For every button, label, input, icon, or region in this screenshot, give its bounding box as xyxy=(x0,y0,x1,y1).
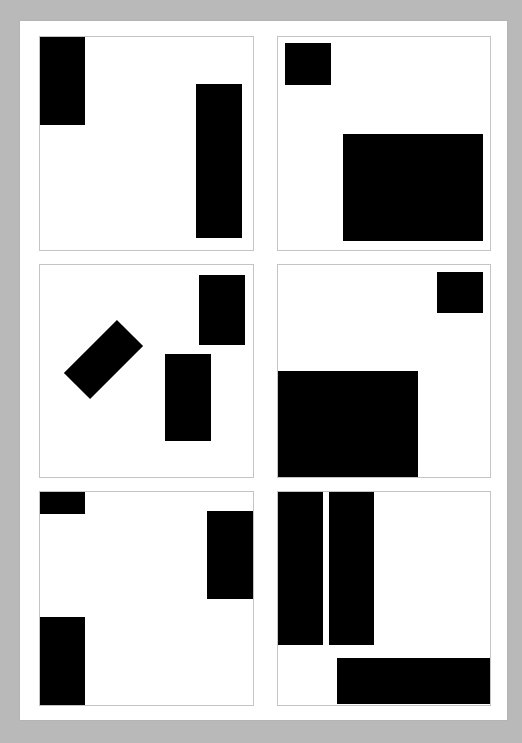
panel-3 xyxy=(39,264,254,478)
black-rectangle-5-2 xyxy=(207,511,253,599)
panel-1 xyxy=(39,36,254,251)
panel-2 xyxy=(277,36,491,251)
black-rectangle-6-3 xyxy=(337,658,490,704)
black-rectangle-1-2 xyxy=(196,84,242,238)
panel-6 xyxy=(277,491,491,706)
black-rectangle-3-2 xyxy=(199,275,245,345)
panel-5 xyxy=(39,491,254,706)
black-rectangle-4-2 xyxy=(277,371,418,478)
black-rectangle-2-2 xyxy=(343,134,483,241)
black-rectangle-5-3 xyxy=(39,617,85,705)
black-rectangle-1-1 xyxy=(39,36,85,125)
panel-4 xyxy=(277,264,491,478)
black-rectangle-4-1 xyxy=(437,272,483,313)
black-rectangle-2-1 xyxy=(285,43,331,85)
rotated-rectangle-3-1 xyxy=(64,320,143,399)
black-rectangle-5-1 xyxy=(39,491,85,514)
black-rectangle-6-1 xyxy=(277,491,323,645)
black-rectangle-6-2 xyxy=(329,491,374,645)
black-rectangle-3-3 xyxy=(165,354,211,441)
